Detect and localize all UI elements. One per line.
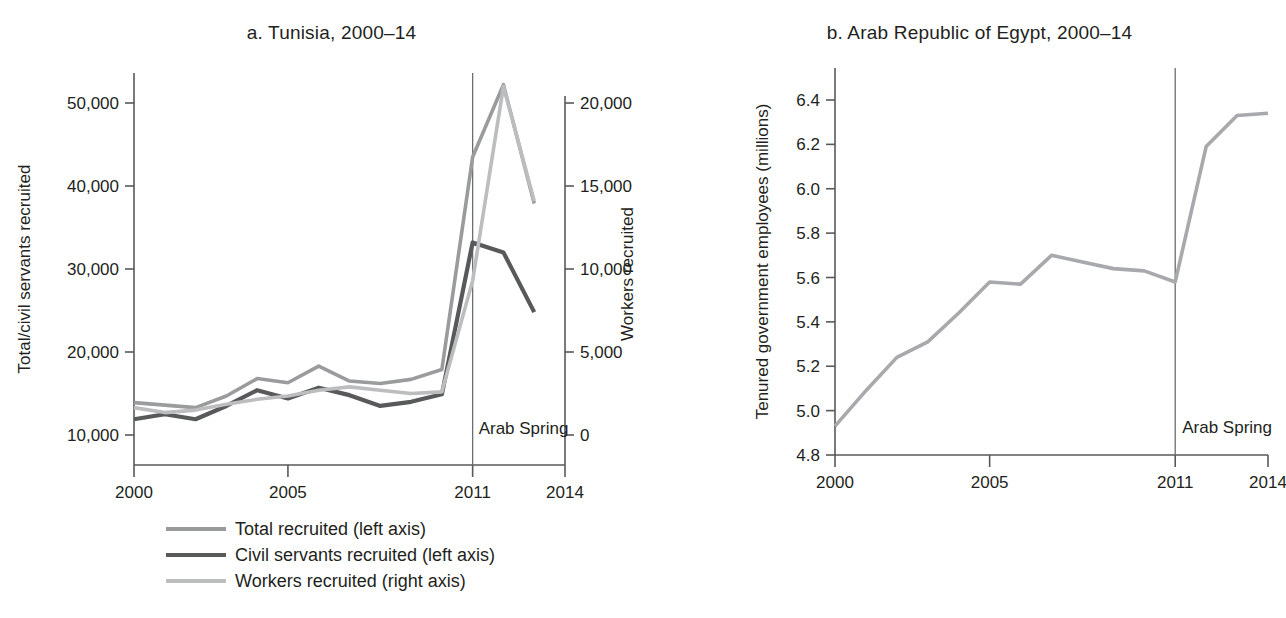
- right-axis-tick-label: 0: [580, 426, 589, 445]
- chart-panel-tunisia: a. Tunisia, 2000–14 10,00020,00030,00040…: [0, 0, 643, 510]
- left-axis-title: Total/civil servants recruited: [15, 165, 34, 374]
- x-axis-tick-label: 2014: [546, 483, 584, 502]
- left-axis-tick-label: 10,000: [67, 426, 119, 445]
- y-axis-tick-label: 6.0: [796, 180, 820, 199]
- right-axis-tick-label: 15,000: [580, 177, 632, 196]
- y-axis-tick-label: 5.4: [796, 313, 820, 332]
- legend-swatch-civil-servants-recruited: [166, 553, 226, 557]
- x-axis-tick-label: 2000: [115, 483, 153, 502]
- left-axis-tick-label: 20,000: [67, 343, 119, 362]
- chart-panel-egypt: b. Arab Republic of Egypt, 2000–14 4.85.…: [643, 0, 1286, 510]
- x-axis-tick-label: 2005: [971, 473, 1009, 492]
- legend-swatch-total-recruited: [166, 527, 226, 531]
- panel-b-title: b. Arab Republic of Egypt, 2000–14: [643, 22, 1286, 44]
- x-axis-tick-label: 2011: [454, 483, 491, 502]
- y-axis-tick-label: 6.4: [796, 91, 820, 110]
- legend-item-total-recruited: Total recruited (left axis): [166, 516, 426, 542]
- y-axis-tick-label: 5.6: [796, 269, 820, 288]
- right-axis-tick-label: 5,000: [580, 343, 623, 362]
- left-axis-tick-label: 30,000: [67, 260, 119, 279]
- right-axis-tick-label: 20,000: [580, 94, 632, 113]
- egypt-line-chart: 4.85.05.25.45.65.86.06.26.42000200520112…: [643, 0, 1286, 510]
- panel-a-title: a. Tunisia, 2000–14: [0, 22, 643, 44]
- x-axis-tick-label: 2005: [269, 483, 307, 502]
- legend-swatch-workers-recruited: [166, 579, 226, 583]
- y-axis-tick-label: 5.0: [796, 402, 820, 421]
- legend-item-civil-servants-recruited: Civil servants recruited (left axis): [166, 542, 495, 568]
- x-axis-tick-label: 2000: [816, 473, 854, 492]
- series-line: [134, 86, 534, 412]
- y-axis-title: Tenured government employees (millions): [753, 104, 772, 420]
- legend-item-workers-recruited: Workers recruited (right axis): [166, 568, 466, 594]
- tunisia-line-chart: 10,00020,00030,00040,00050,00005,00010,0…: [0, 0, 643, 510]
- x-axis-tick-label: 2011: [1157, 473, 1194, 492]
- legend-label-civil-servants-recruited: Civil servants recruited (left axis): [235, 546, 495, 564]
- chart-legend: Total recruited (left axis) Civil servan…: [0, 512, 643, 618]
- right-axis-title: Workers recruited: [618, 207, 637, 341]
- y-axis-tick-label: 4.8: [796, 446, 820, 465]
- y-axis-tick-label: 5.8: [796, 224, 820, 243]
- series-line: [134, 85, 534, 408]
- arab-spring-event-label: Arab Spring: [479, 419, 569, 438]
- x-axis-tick-label: 2014: [1249, 473, 1286, 492]
- left-axis-tick-label: 40,000: [67, 177, 119, 196]
- y-axis-tick-label: 5.2: [796, 357, 820, 376]
- legend-label-workers-recruited: Workers recruited (right axis): [235, 572, 466, 590]
- figure-root: a. Tunisia, 2000–14 10,00020,00030,00040…: [0, 0, 1286, 618]
- y-axis-tick-label: 6.2: [796, 135, 820, 154]
- left-axis-tick-label: 50,000: [67, 94, 119, 113]
- series-line: [835, 113, 1268, 426]
- legend-label-total-recruited: Total recruited (left axis): [235, 520, 426, 538]
- arab-spring-event-label: Arab Spring: [1182, 418, 1272, 437]
